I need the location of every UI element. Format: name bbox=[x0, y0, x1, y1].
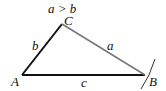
vertex-a-label: A bbox=[10, 74, 19, 89]
side-a bbox=[62, 24, 145, 75]
side-a-label: a bbox=[107, 38, 114, 53]
side-b-label: b bbox=[32, 38, 39, 53]
side-b bbox=[22, 24, 62, 75]
triangle-diagram: a > b C A B b a c bbox=[0, 0, 166, 91]
vertex-c-label: C bbox=[64, 13, 73, 28]
vertex-b-label: B bbox=[149, 74, 157, 89]
side-c-label: c bbox=[81, 75, 87, 90]
